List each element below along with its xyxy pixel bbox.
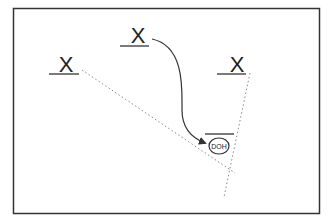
player-x-top-label: X bbox=[131, 23, 146, 48]
play-diagram: X X X DOH bbox=[0, 0, 328, 222]
target-label: DOH bbox=[211, 143, 227, 150]
player-x-right-label: X bbox=[230, 52, 245, 77]
curved-arrow bbox=[152, 39, 205, 143]
dotted-route-right bbox=[224, 73, 250, 197]
player-x-left: X bbox=[49, 52, 79, 77]
player-x-left-label: X bbox=[59, 52, 74, 77]
player-x-right: X bbox=[217, 52, 246, 77]
dotted-route-left bbox=[82, 70, 235, 173]
target-doh: DOH bbox=[205, 134, 234, 154]
player-x-top: X bbox=[120, 23, 149, 48]
diagram-frame bbox=[14, 9, 320, 214]
